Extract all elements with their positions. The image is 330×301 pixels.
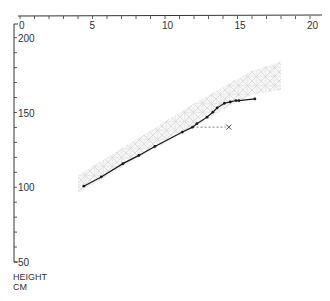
x-marker-icon — [226, 125, 231, 130]
y-axis-title-line2: CM — [13, 282, 27, 292]
data-point — [122, 162, 125, 165]
y-tick-label: 50 — [18, 257, 30, 268]
growth-chart: 0510152050100150200 HEIGHT CM — [0, 0, 330, 301]
data-point — [82, 185, 85, 188]
data-point — [235, 99, 238, 102]
data-point — [223, 102, 226, 105]
data-point — [181, 131, 184, 134]
data-point — [153, 145, 156, 148]
data-point — [216, 106, 219, 109]
x-tick-label: 10 — [162, 20, 174, 31]
y-tick-label: 100 — [18, 182, 35, 193]
data-point — [238, 99, 241, 102]
x-tick-label: 20 — [307, 20, 319, 31]
data-point — [211, 111, 214, 114]
y-tick-label: 150 — [18, 108, 35, 119]
data-point — [100, 176, 103, 179]
band-area — [78, 62, 281, 194]
data-point — [196, 122, 199, 125]
x-axis-line — [18, 15, 322, 16]
data-point — [254, 97, 257, 100]
x-tick-label: 5 — [90, 20, 96, 31]
x-tick-label: 0 — [19, 20, 25, 31]
data-point — [229, 100, 232, 103]
normal-range-band — [78, 62, 281, 194]
x-tick-label: 15 — [235, 20, 247, 31]
data-point — [206, 116, 209, 119]
data-point — [138, 154, 141, 157]
annotation-marker — [193, 125, 232, 130]
y-tick-label: 200 — [18, 33, 35, 44]
y-axis-title-line1: HEIGHT — [13, 272, 48, 282]
